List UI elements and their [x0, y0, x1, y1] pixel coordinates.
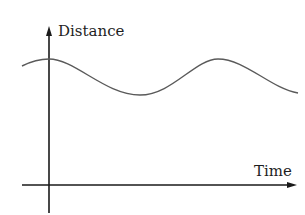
chart-canvas: Distance Time: [0, 0, 305, 215]
y-axis-label: Distance: [58, 22, 124, 40]
chart-svg: [0, 0, 305, 215]
x-axis-arrow-icon: [287, 182, 297, 188]
y-axis-arrow-icon: [46, 26, 52, 36]
x-axis-label: Time: [254, 162, 292, 180]
distance-curve: [22, 59, 298, 95]
